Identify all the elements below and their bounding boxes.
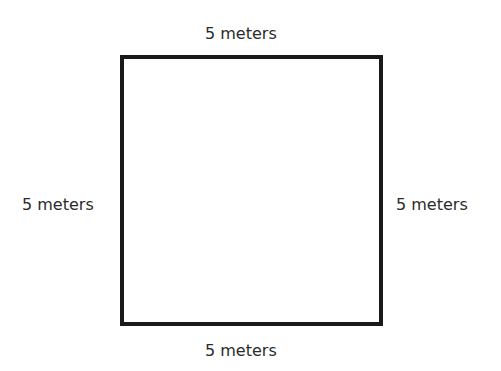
right-side-label: 5 meters: [396, 195, 468, 215]
bottom-side-label: 5 meters: [205, 341, 277, 361]
top-side-label: 5 meters: [205, 24, 277, 44]
left-side-label: 5 meters: [22, 195, 94, 215]
square-shape: [120, 55, 383, 326]
